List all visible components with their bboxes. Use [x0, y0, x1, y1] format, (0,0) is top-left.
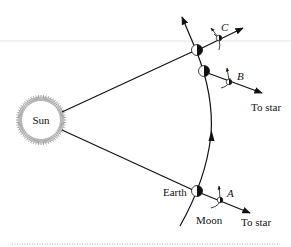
sun-to-earth-a-line	[62, 130, 193, 190]
label-b: B	[237, 70, 244, 82]
sun-to-earth-c-line	[62, 51, 194, 112]
sidereal-synodic-month-diagram: Sun C B To	[0, 0, 291, 247]
sun-label: Sun	[32, 114, 50, 126]
earth-a-icon	[192, 186, 203, 197]
to-star-label-b: To star	[251, 101, 281, 113]
label-a: A	[226, 187, 234, 199]
label-c: C	[221, 21, 229, 33]
position-a: A Earth Moon To star	[163, 186, 271, 229]
to-star-label-a: To star	[241, 216, 271, 228]
position-c: C	[192, 21, 244, 56]
orbit-direction-arrow-icon	[209, 130, 215, 141]
earth-label: Earth	[163, 186, 187, 198]
moon-label: Moon	[196, 214, 223, 226]
earth-b-icon	[199, 66, 210, 77]
sun: Sun	[16, 95, 66, 145]
moon-a-icon	[211, 186, 223, 208]
earth-c-icon	[192, 45, 203, 56]
